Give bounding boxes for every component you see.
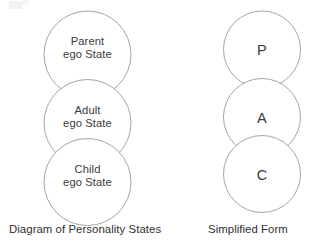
circle-label-a: A [223,110,301,127]
circle-label-adult: Adult ego State [44,104,132,130]
figure-container: Parent ego State Adult ego State Child e… [0,0,323,249]
circle-label-parent: Parent ego State [44,35,132,61]
circle-label-p: P [223,42,301,59]
circle-label-adult-line1: Adult [44,104,132,117]
circle-label-adult-line2: ego State [44,117,132,130]
caption-personality-states: Diagram of Personality States [9,223,161,235]
circle-label-parent-line2: ego State [44,48,132,61]
circle-label-parent-line1: Parent [44,35,132,48]
circle-label-child-line2: ego State [44,176,132,189]
diagram-stage: Parent ego State Adult ego State Child e… [0,0,323,249]
circle-label-c: C [223,167,301,184]
circle-label-child-line1: Child [44,163,132,176]
caption-simplified-form: Simplified Form [208,223,288,235]
circle-label-child: Child ego State [44,163,132,189]
